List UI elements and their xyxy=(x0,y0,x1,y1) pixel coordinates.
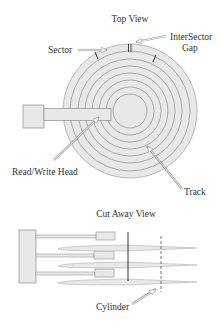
actuator-arm xyxy=(44,109,111,121)
intersector-gap-label-line1: InterSector xyxy=(170,32,213,42)
top-view-title: Top View xyxy=(112,14,149,24)
read-write-head-label: Read/Write Head xyxy=(12,167,78,177)
cylinder-arrow-icon xyxy=(132,290,155,304)
read-write-head xyxy=(95,269,114,277)
track-label: Track xyxy=(184,187,206,197)
cut-away-view-title: Cut Away View xyxy=(96,209,156,219)
intersector-gap-label-line2: Gap xyxy=(182,43,198,53)
arm xyxy=(36,272,95,275)
read-write-head xyxy=(94,251,114,259)
head-arms xyxy=(36,232,115,277)
read-write-head xyxy=(96,232,115,240)
arm xyxy=(36,254,94,257)
sector-label: Sector xyxy=(48,45,73,55)
disk-diagram: Top View Sector InterSector Gap Read/Wri… xyxy=(0,0,220,331)
intersector-gap-arrow-icon xyxy=(137,36,166,42)
cylinder-label: Cylinder xyxy=(96,302,130,312)
actuator-block-side xyxy=(19,230,36,283)
actuator-block xyxy=(23,105,44,128)
arm xyxy=(36,235,96,238)
